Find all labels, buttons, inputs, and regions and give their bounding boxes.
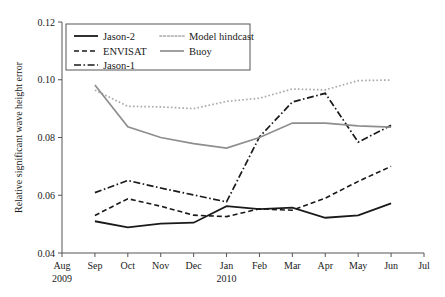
x-tick-label: Nov <box>152 260 169 271</box>
series-line-jason-1 <box>95 93 391 202</box>
series-line-model-hindcast <box>95 80 391 109</box>
x-tick-label: Feb <box>252 260 267 271</box>
y-tick-label: 0.08 <box>38 132 56 143</box>
x-tick-label: Mar <box>284 260 301 271</box>
x-axis-year-label: 2009 <box>52 273 72 284</box>
line-chart: 0.040.060.080.100.12AugSepOctNovDecJanFe… <box>0 0 445 297</box>
legend-label-jason-2: Jason-2 <box>103 31 135 42</box>
legend-label-model-hindcast: Model hindcast <box>189 31 254 42</box>
x-tick-label: May <box>349 260 367 271</box>
y-axis-title: Relative significant wave height error <box>13 61 24 213</box>
y-tick-label: 0.06 <box>38 190 56 201</box>
y-tick-label: 0.10 <box>38 74 56 85</box>
x-tick-label: Jun <box>384 260 398 271</box>
x-tick-label: Aug <box>53 260 70 271</box>
x-tick-label: Apr <box>317 260 333 271</box>
x-tick-label: Oct <box>121 260 136 271</box>
series-line-jason-2 <box>95 203 391 227</box>
x-axis-year-label: 2010 <box>217 273 237 284</box>
legend-label-buoy: Buoy <box>189 46 213 57</box>
chart-figure: 0.040.060.080.100.12AugSepOctNovDecJanFe… <box>0 0 445 297</box>
series-line-envisat <box>95 166 391 216</box>
x-tick-label: Sep <box>87 260 102 271</box>
x-tick-label: Jul <box>418 260 430 271</box>
y-tick-label: 0.04 <box>38 248 56 259</box>
series-line-buoy <box>95 85 391 148</box>
legend-label-jason-1: Jason-1 <box>103 60 135 71</box>
y-tick-label: 0.12 <box>38 17 56 28</box>
legend-label-envisat: ENVISAT <box>103 46 147 57</box>
x-tick-label: Dec <box>186 260 203 271</box>
x-tick-label: Jan <box>220 260 233 271</box>
